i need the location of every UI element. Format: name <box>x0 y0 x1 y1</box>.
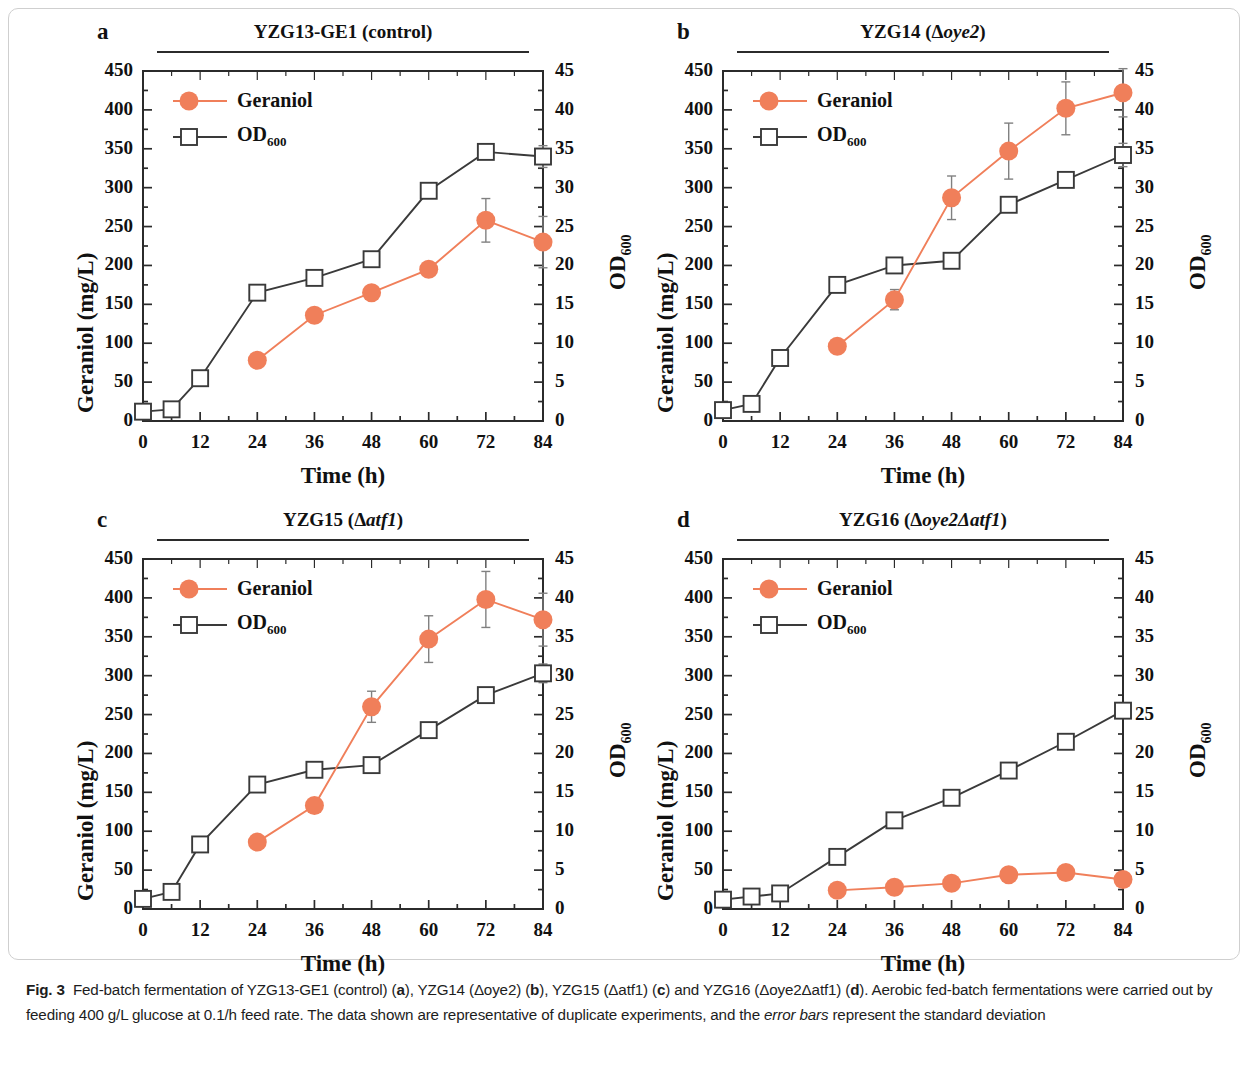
od600-marker-icon <box>751 614 809 636</box>
ytick-left-label: 350 <box>81 625 133 647</box>
xtick-label: 0 <box>701 919 745 941</box>
ytick-right-label: 15 <box>1135 292 1177 314</box>
ytick-right-label: 25 <box>1135 703 1177 725</box>
xtick-label: 84 <box>1101 919 1145 941</box>
ytick-right-label: 30 <box>1135 664 1177 686</box>
xtick-label: 24 <box>815 919 859 941</box>
od600-marker-icon <box>751 126 809 148</box>
ytick-left-label: 400 <box>81 98 133 120</box>
ytick-right-label: 45 <box>555 59 597 81</box>
xtick-label: 48 <box>930 431 974 453</box>
xtick-label: 48 <box>350 919 394 941</box>
ytick-right-label: 20 <box>1135 741 1177 763</box>
y-axis-left-title: Geraniol (mg/L) <box>653 741 679 901</box>
xtick-label: 72 <box>1044 431 1088 453</box>
xtick-label: 48 <box>350 431 394 453</box>
ytick-right-label: 35 <box>555 625 597 647</box>
ytick-left-label: 400 <box>661 98 713 120</box>
y-axis-left-title: Geraniol (mg/L) <box>653 253 679 413</box>
legend-label-geraniol: Geraniol <box>817 577 893 600</box>
ytick-left-label: 350 <box>661 625 713 647</box>
panel-b: bYZG14 (Δoye2)05010015020025030035040045… <box>649 19 1209 499</box>
xtick-label: 12 <box>178 431 222 453</box>
ytick-right-label: 10 <box>1135 819 1177 841</box>
xtick-label: 36 <box>872 919 916 941</box>
xtick-label: 36 <box>292 919 336 941</box>
legend-c: GeraniolOD600 <box>171 577 391 647</box>
ytick-right-label: 0 <box>1135 409 1177 431</box>
od600-marker-icon <box>171 614 229 636</box>
ytick-left-label: 300 <box>661 664 713 686</box>
legend-label-geraniol: Geraniol <box>237 89 313 112</box>
ytick-right-label: 0 <box>555 897 597 919</box>
ytick-right-label: 30 <box>555 664 597 686</box>
xtick-label: 60 <box>407 919 451 941</box>
xtick-label: 60 <box>987 431 1031 453</box>
legend-entry-geraniol: Geraniol <box>751 577 893 600</box>
caption-emphasis: error bars <box>764 1006 828 1023</box>
y-axis-right-title: OD600 <box>605 235 635 291</box>
panel-a: aYZG13-GE1 (control)05010015020025030035… <box>69 19 629 499</box>
ytick-left-label: 250 <box>81 215 133 237</box>
xtick-label: 36 <box>872 431 916 453</box>
y-axis-left-title: Geraniol (mg/L) <box>73 741 99 901</box>
xtick-label: 72 <box>464 431 508 453</box>
ytick-left-label: 250 <box>81 703 133 725</box>
xtick-label: 60 <box>407 431 451 453</box>
y-axis-right-title: OD600 <box>605 723 635 779</box>
ytick-right-label: 20 <box>1135 253 1177 275</box>
caption-ref-a: a <box>396 981 404 998</box>
ytick-right-label: 20 <box>555 741 597 763</box>
geraniol-marker-icon <box>171 578 229 600</box>
ytick-right-label: 45 <box>1135 59 1177 81</box>
y-axis-left-title: Geraniol (mg/L) <box>73 253 99 413</box>
ytick-right-label: 30 <box>555 176 597 198</box>
caption-ref-b: b <box>530 981 539 998</box>
caption-text-4: ) and YZG16 (Δoye2Δatf1) ( <box>665 981 850 998</box>
ytick-left-label: 300 <box>81 664 133 686</box>
xtick-label: 36 <box>292 431 336 453</box>
legend-label-od600: OD600 <box>817 123 867 150</box>
ytick-right-label: 45 <box>1135 547 1177 569</box>
x-axis-title: Time (h) <box>723 463 1123 489</box>
x-axis-title: Time (h) <box>723 951 1123 977</box>
ytick-right-label: 5 <box>1135 370 1177 392</box>
legend-entry-od600: OD600 <box>751 611 867 638</box>
x-axis-title: Time (h) <box>143 463 543 489</box>
figure-caption: Fig. 3 Fed-batch fermentation of YZG13-G… <box>26 978 1221 1027</box>
ytick-right-label: 35 <box>1135 137 1177 159</box>
xtick-label: 72 <box>464 919 508 941</box>
ytick-left-label: 300 <box>661 176 713 198</box>
legend-d: GeraniolOD600 <box>751 577 971 647</box>
ytick-right-label: 45 <box>555 547 597 569</box>
caption-text-2: ), YZG14 (Δoye2) ( <box>405 981 530 998</box>
ytick-right-label: 25 <box>555 215 597 237</box>
ytick-right-label: 5 <box>555 370 597 392</box>
ytick-left-label: 450 <box>661 59 713 81</box>
ytick-left-label: 250 <box>661 703 713 725</box>
xtick-label: 0 <box>701 431 745 453</box>
xtick-label: 24 <box>235 919 279 941</box>
ytick-left-label: 450 <box>661 547 713 569</box>
x-axis-title: Time (h) <box>143 951 543 977</box>
ytick-right-label: 40 <box>1135 98 1177 120</box>
legend-entry-geraniol: Geraniol <box>751 89 893 112</box>
geraniol-marker-icon <box>751 578 809 600</box>
legend-entry-od600: OD600 <box>751 123 867 150</box>
legend-label-geraniol: Geraniol <box>817 89 893 112</box>
legend-a: GeraniolOD600 <box>171 89 391 159</box>
ytick-left-label: 250 <box>661 215 713 237</box>
ytick-right-label: 15 <box>555 780 597 802</box>
ytick-right-label: 15 <box>1135 780 1177 802</box>
ytick-right-label: 0 <box>555 409 597 431</box>
ytick-right-label: 10 <box>1135 331 1177 353</box>
panel-d: dYZG16 (Δoye2Δatf1)050100150200250300350… <box>649 507 1209 987</box>
ytick-left-label: 300 <box>81 176 133 198</box>
ytick-left-label: 400 <box>661 586 713 608</box>
xtick-label: 48 <box>930 919 974 941</box>
legend-entry-od600: OD600 <box>171 123 287 150</box>
caption-ref-d: d <box>850 981 859 998</box>
ytick-right-label: 40 <box>555 98 597 120</box>
xtick-label: 60 <box>987 919 1031 941</box>
xtick-label: 84 <box>1101 431 1145 453</box>
